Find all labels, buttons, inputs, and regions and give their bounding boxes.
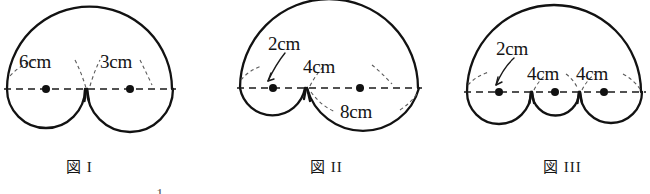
figure-2-group: 2cm 4cm 8cm — [237, 0, 422, 131]
figure-2-center-dot-right — [356, 84, 364, 92]
figure-3-center-dot-left — [495, 88, 503, 96]
figure-2-leader-arrow-2cm — [268, 53, 285, 81]
figure-1-outer-arc — [7, 7, 172, 89]
figure-2-label-4cm: 4cm — [303, 56, 336, 77]
figure-3-caption: 図 III — [543, 155, 582, 176]
figure-3-group: 2cm 4cm 4cm — [464, 5, 646, 124]
figure-3-label-4cm-middle: 4cm — [527, 63, 560, 84]
figure-2-cusp-right — [307, 88, 310, 101]
figure-1-label-3cm: 3cm — [100, 51, 133, 72]
figure-2-label-8cm: 8cm — [340, 101, 373, 122]
figure-3-cusp-1-left — [530, 92, 532, 103]
figure-3-label-4cm-right: 4cm — [576, 63, 609, 84]
figure-2-leader-arrowhead-2cm — [268, 73, 274, 81]
figure-3-radius-4cm-right-pointer — [623, 74, 640, 89]
figure-3-label-2cm: 2cm — [496, 38, 529, 59]
figure-2-radius-2cm-leader — [241, 66, 262, 80]
figure-1-left-lower-semicircle — [7, 89, 85, 128]
figure-2-radius-8cm-leader — [311, 92, 336, 112]
figure-3-leader-arrow-2cm — [496, 58, 514, 85]
figure-3-left-lower-semicircle — [467, 92, 531, 124]
figure-3-center-dot-middle — [551, 88, 559, 96]
figure-1-caption: 図 I — [66, 155, 93, 176]
figure-3-center-dot-right — [600, 88, 608, 96]
figure-2-center-dot-left — [269, 84, 277, 92]
figure-1-center-dot-left — [42, 85, 50, 93]
figure-3-cusp-2-left — [578, 92, 580, 103]
figure-1-group: 6cm 3cm — [4, 7, 176, 132]
figure-1-right-lower-semicircle — [87, 89, 173, 132]
figure-1-radius-3cm-pointer — [140, 60, 152, 85]
figure-3-right-lower-semicircle — [580, 92, 642, 123]
figure-1-center-dot-right — [126, 85, 134, 93]
figure-1-radius-3cm-leader — [90, 60, 100, 86]
figure-3-radius-2cm-leader — [468, 72, 489, 85]
figure-2-radius-4cm-pointer — [372, 65, 392, 84]
figure-3-cusp-1-right — [532, 92, 534, 103]
figure-sheet: 6cm 3cm — [0, 0, 650, 194]
figure-1-label-6cm: 6cm — [19, 51, 52, 72]
figure-1-cusp-left — [85, 89, 87, 101]
figure-2-left-lower-semicircle — [240, 88, 305, 115]
figure-1-radius-6cm-pointer — [75, 60, 86, 88]
page-number: 1 — [156, 187, 164, 194]
figure-2-label-2cm: 2cm — [268, 33, 301, 54]
figure-2-caption: 図 II — [310, 155, 343, 176]
